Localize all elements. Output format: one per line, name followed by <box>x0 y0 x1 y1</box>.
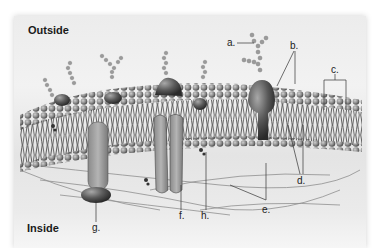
label-a: a. <box>227 37 235 48</box>
label-c: c. <box>331 64 339 75</box>
peripheral-protein <box>193 98 207 110</box>
label-b: b. <box>290 40 298 51</box>
inside-label: Inside <box>27 222 59 234</box>
channel-protein <box>154 115 168 193</box>
label-g: g. <box>92 222 100 233</box>
label-e: e. <box>262 204 270 215</box>
channel-protein <box>170 114 183 193</box>
outside-label: Outside <box>28 24 69 36</box>
peripheral-protein <box>155 78 182 96</box>
peripheral-protein <box>104 92 122 104</box>
peripheral-protein <box>54 94 70 106</box>
membrane-illustration <box>0 0 386 248</box>
label-d: d. <box>297 175 305 186</box>
transmembrane-protein <box>88 122 108 190</box>
cytoskeleton-fibers <box>20 165 360 215</box>
label-f: f. <box>179 210 185 221</box>
label-h: h. <box>201 210 209 221</box>
